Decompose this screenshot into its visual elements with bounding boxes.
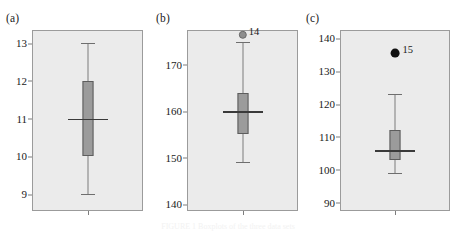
median-line	[375, 150, 415, 151]
y-tick-label: 120	[319, 99, 341, 110]
figure-caption: FIGURE 1 Boxplots of the three data sets	[0, 222, 456, 232]
x-tick	[395, 211, 396, 215]
box-iqr	[390, 130, 401, 160]
boxplot-figure: (a)131211109(b)17016015014014(c)14013012…	[0, 0, 456, 232]
outlier-label: 15	[402, 45, 413, 56]
y-axis: 14013012011010090	[0, 0, 340, 232]
outlier-point	[391, 49, 400, 58]
y-tick-label: 140	[319, 33, 341, 44]
y-tick-label: 130	[319, 66, 341, 77]
y-tick-label: 90	[324, 197, 340, 208]
y-tick-label: 110	[319, 131, 340, 142]
whisker-cap-upper	[388, 94, 402, 95]
y-tick-label: 100	[319, 164, 341, 175]
whisker-cap-lower	[388, 173, 402, 174]
